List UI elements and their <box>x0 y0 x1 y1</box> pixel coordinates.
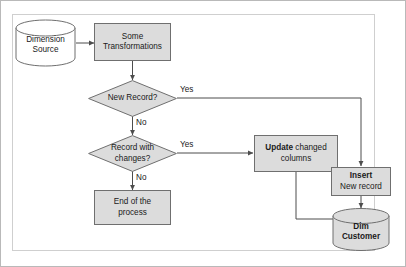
transform-line-1: Some <box>122 32 143 41</box>
target-line-2: Customer <box>342 232 380 241</box>
source-line-1: Dimension <box>26 35 65 44</box>
node-dimension-source: Dimension Source <box>15 19 76 67</box>
edge-label-new-record-yes: Yes <box>180 85 193 94</box>
record-changes-decision-label: Record with changes? <box>88 135 177 172</box>
node-insert-new-record: Insert New record <box>331 167 391 196</box>
target-line-1: Dim <box>353 222 368 231</box>
node-new-record-decision: New Record? <box>88 80 177 117</box>
node-update-changed-columns: Update changed columns <box>254 135 338 172</box>
record-changes-line-1: Record with <box>111 143 154 152</box>
node-dimension-source-label: Dimension Source <box>15 19 76 67</box>
node-dim-customer: Dim Customer <box>332 208 390 252</box>
update-rest: changed <box>293 143 327 152</box>
node-end-of-process: End of the process <box>94 190 171 225</box>
edge-label-record-changes-yes: Yes <box>180 140 193 149</box>
node-record-changes-decision: Record with changes? <box>88 135 177 172</box>
update-strong: Update <box>265 143 293 152</box>
new-record-decision-label: New Record? <box>88 80 177 117</box>
edge-label-record-changes-no: No <box>136 173 146 182</box>
source-line-2: Source <box>33 45 59 54</box>
record-changes-line-2: changes? <box>115 154 151 163</box>
flowchart-diagram: Dimension Source Some Transformations Ne… <box>0 0 406 267</box>
dim-customer-label: Dim Customer <box>332 208 390 252</box>
update-line-2: columns <box>281 154 312 163</box>
insert-strong: Insert <box>350 171 372 180</box>
new-record-line-1: New Record? <box>108 93 158 103</box>
node-some-transformations: Some Transformations <box>94 23 171 61</box>
end-process-line-2: process <box>118 208 147 217</box>
edge-label-new-record-no: No <box>136 118 146 127</box>
insert-line-2: New record <box>340 182 382 191</box>
end-process-line-1: End of the <box>114 197 151 206</box>
transform-line-2: Transformations <box>103 42 162 51</box>
